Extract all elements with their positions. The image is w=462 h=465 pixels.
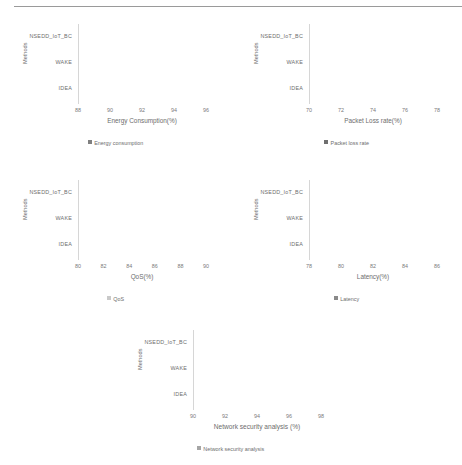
legend-swatch-icon [334, 296, 338, 300]
category-label: WAKE [287, 215, 303, 221]
x-tick-label: 78 [434, 107, 440, 113]
chart-legend: Network security analysis [115, 445, 346, 452]
legend-label: Energy consumption [94, 140, 143, 146]
plot-area: NSEDD_IoT_BC WAKE IDEA [78, 180, 206, 258]
category-label: IDEA [174, 391, 187, 397]
category-label: IDEA [290, 241, 303, 247]
category-label: WAKE [56, 59, 72, 65]
chart-panel-network-security-analysis: Methods NSEDD_IoT_BC WAKE IDEA 909294969… [115, 320, 346, 465]
x-tick-label: 80 [75, 263, 81, 269]
x-axis-ticks: 7072747678 [309, 107, 437, 117]
x-tick-label: 70 [306, 107, 312, 113]
top-divider-rule [14, 6, 462, 7]
x-axis-ticks: 8890929496 [78, 107, 206, 117]
chart-legend: Packet loss rate [231, 139, 462, 146]
y-axis-title: Methods [253, 199, 259, 220]
x-tick-label: 90 [190, 413, 196, 419]
chart-panel-latency: Methods NSEDD_IoT_BC WAKE IDEA 788082848… [231, 170, 462, 320]
x-axis-title: Packet Loss rate(%) [309, 117, 437, 124]
category-label: NSEDD_IoT_BC [144, 339, 187, 345]
x-tick-label: 90 [107, 107, 113, 113]
chart-panel-packet-loss-rate: Methods NSEDD_IoT_BC WAKE IDEA 707274767… [231, 14, 462, 164]
category-label: NSEDD_IoT_BC [29, 189, 72, 195]
chart-legend: Latency [231, 295, 462, 302]
y-axis-title: Methods [137, 349, 143, 370]
x-tick-label: 74 [370, 107, 376, 113]
chart-panel-energy-consumption: Methods NSEDD_IoT_BC WAKE IDEA 889092949… [0, 14, 231, 164]
legend-swatch-icon [324, 140, 328, 144]
legend-swatch-icon [107, 296, 111, 300]
chart-legend: Energy consumption [0, 139, 231, 146]
category-label: IDEA [59, 241, 72, 247]
x-axis-title: Network security analysis (%) [193, 423, 321, 430]
x-tick-label: 96 [203, 107, 209, 113]
x-tick-label: 88 [177, 263, 183, 269]
x-tick-label: 80 [338, 263, 344, 269]
x-tick-label: 82 [370, 263, 376, 269]
x-tick-label: 82 [101, 263, 107, 269]
x-tick-label: 86 [152, 263, 158, 269]
chart-legend: QoS [0, 295, 231, 302]
legend-label: QoS [113, 296, 124, 302]
plot-area: NSEDD_IoT_BC WAKE IDEA [309, 180, 437, 258]
category-label: WAKE [171, 365, 187, 371]
y-axis-title: Methods [22, 43, 28, 64]
x-axis-title: Energy Consumption(%) [78, 117, 206, 124]
category-label: NSEDD_IoT_BC [260, 189, 303, 195]
x-tick-label: 84 [126, 263, 132, 269]
category-label: NSEDD_IoT_BC [260, 33, 303, 39]
legend-swatch-icon [88, 140, 92, 144]
x-axis-ticks: 7880828486 [309, 263, 437, 273]
legend-swatch-icon [197, 446, 201, 450]
legend-label: Latency [340, 296, 359, 302]
x-tick-label: 78 [306, 263, 312, 269]
x-tick-label: 72 [338, 107, 344, 113]
category-label: IDEA [59, 85, 72, 91]
category-label: NSEDD_IoT_BC [29, 33, 72, 39]
x-axis-ticks: 808284868890 [78, 263, 206, 273]
x-tick-label: 94 [171, 107, 177, 113]
x-tick-label: 84 [402, 263, 408, 269]
legend-label: Network security analysis [203, 446, 264, 452]
plot-area: NSEDD_IoT_BC WAKE IDEA [78, 24, 206, 102]
x-tick-label: 92 [139, 107, 145, 113]
category-label: WAKE [287, 59, 303, 65]
x-axis-title: Latency(%) [309, 273, 437, 280]
legend-label: Packet loss rate [331, 140, 369, 146]
x-tick-label: 76 [402, 107, 408, 113]
y-axis-title: Methods [22, 199, 28, 220]
category-label: WAKE [56, 215, 72, 221]
category-label: IDEA [290, 85, 303, 91]
x-tick-label: 98 [318, 413, 324, 419]
x-tick-label: 92 [222, 413, 228, 419]
x-tick-label: 88 [75, 107, 81, 113]
plot-area: NSEDD_IoT_BC WAKE IDEA [309, 24, 437, 102]
x-tick-label: 90 [203, 263, 209, 269]
chart-panel-qos: Methods NSEDD_IoT_BC WAKE IDEA 808284868… [0, 170, 231, 320]
x-tick-label: 96 [286, 413, 292, 419]
y-axis-title: Methods [253, 43, 259, 64]
x-tick-label: 94 [254, 413, 260, 419]
x-axis-title: QoS(%) [78, 273, 206, 280]
x-axis-ticks: 9092949698 [193, 413, 321, 423]
x-tick-label: 86 [434, 263, 440, 269]
plot-area: NSEDD_IoT_BC WAKE IDEA [193, 330, 321, 408]
